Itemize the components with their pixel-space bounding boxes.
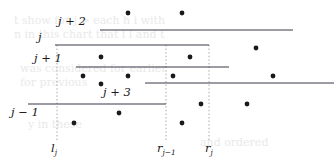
segment-label-j-minus-1: j − 1 <box>11 105 39 119</box>
data-point <box>188 55 193 60</box>
segment-label-j-plus-3: j + 3 <box>103 85 131 99</box>
vertical-dotted-line-group <box>57 45 209 140</box>
interval-segment-group <box>28 30 334 104</box>
data-point <box>72 121 77 126</box>
segment-label-j-plus-2: j + 2 <box>58 14 86 28</box>
data-point <box>126 74 131 79</box>
data-point <box>99 55 104 60</box>
data-point <box>171 74 176 79</box>
data-point <box>245 102 250 107</box>
data-point <box>117 111 122 116</box>
point-group <box>72 11 276 126</box>
data-point <box>180 11 185 16</box>
data-point <box>81 74 86 79</box>
tick-label-r-j-subscript: j <box>211 148 213 157</box>
data-point <box>254 46 259 51</box>
tick-label-r-j-minus-1-subscript: j−1 <box>163 148 176 157</box>
data-point <box>180 121 185 126</box>
tick-label-l-j-subscript: j <box>55 148 57 157</box>
data-point <box>199 102 204 107</box>
tick-label-l-j: lj <box>51 141 57 157</box>
data-point <box>271 74 276 79</box>
interval-diagram-figure: t show for j > each h i with n in this c… <box>0 0 334 165</box>
segment-label-j-plus-1: j + 1 <box>34 51 62 65</box>
segment-label-j: j <box>38 30 42 44</box>
data-point <box>126 11 131 16</box>
tick-label-r-j-minus-1: rj−1 <box>157 141 176 157</box>
tick-label-r-j: rj <box>205 141 213 157</box>
